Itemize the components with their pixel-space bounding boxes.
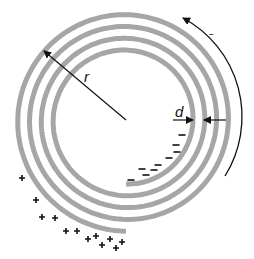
positive-charge-sign xyxy=(63,228,69,234)
positive-charge-sign xyxy=(119,239,125,245)
positive-charge-sign xyxy=(33,197,39,203)
spiral-coil xyxy=(18,15,229,232)
positive-charge-sign xyxy=(107,236,113,242)
positive-charge-sign xyxy=(93,233,99,239)
positive-charge-sign xyxy=(113,245,119,251)
positive-charge-sign xyxy=(52,215,58,221)
positive-charge-sign xyxy=(19,175,25,181)
positive-charge-sign xyxy=(39,214,45,220)
radius-label: r xyxy=(84,68,90,85)
positive-charge-sign xyxy=(99,242,105,248)
positive-charge-sign xyxy=(74,228,80,234)
spacing-label: d xyxy=(175,103,184,120)
negative-charges xyxy=(128,135,186,180)
spiral-diagram: r d – xyxy=(0,0,254,259)
positive-charge-sign xyxy=(85,236,91,242)
rotation-sign: – xyxy=(209,29,214,38)
